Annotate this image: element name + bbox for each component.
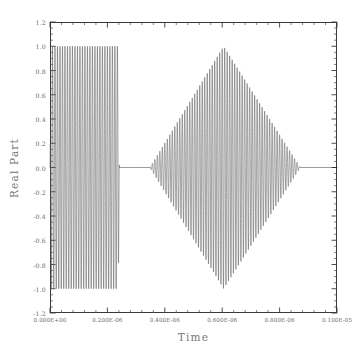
plot-page: 1.21.00.80.60.40.20.0-0.2-0.4-0.6-0.8-1.… bbox=[0, 0, 363, 354]
waveform-trace bbox=[50, 46, 337, 289]
y-tick-label: -0.4 bbox=[33, 213, 46, 220]
waveform-plot-area bbox=[50, 22, 337, 313]
y-tick-label: 0.2 bbox=[36, 140, 46, 147]
y-tick-label: 1.2 bbox=[36, 19, 46, 26]
x-axis-title: Time bbox=[50, 331, 337, 343]
x-tick-label: 0.100E-05 bbox=[322, 317, 352, 323]
x-tick-label: 0.200E-06 bbox=[92, 317, 122, 323]
x-tick-label: 0.600E-06 bbox=[207, 317, 237, 323]
y-axis-title: Real Part bbox=[6, 22, 22, 313]
y-tick-label: -0.6 bbox=[33, 237, 46, 244]
y-axis-title-text: Real Part bbox=[8, 138, 20, 198]
y-tick-label: 0.8 bbox=[36, 67, 46, 74]
y-tick-label: -0.8 bbox=[33, 261, 46, 268]
x-tick-label: 0.800E-06 bbox=[265, 317, 295, 323]
y-tick-label: -1.0 bbox=[33, 285, 46, 292]
y-tick-label: 1.0 bbox=[36, 43, 46, 50]
y-tick-label: -1.2 bbox=[33, 310, 46, 317]
y-tick-label: -0.2 bbox=[33, 188, 46, 195]
x-tick-label: 0.400E-06 bbox=[150, 317, 180, 323]
y-tick-label: 0.6 bbox=[36, 91, 46, 98]
x-tick-label: 0.000E+00 bbox=[34, 317, 67, 323]
plot-frame: 1.21.00.80.60.40.20.0-0.2-0.4-0.6-0.8-1.… bbox=[50, 22, 337, 313]
y-tick-label: 0.0 bbox=[36, 164, 46, 171]
y-tick-label: 0.4 bbox=[36, 116, 46, 123]
